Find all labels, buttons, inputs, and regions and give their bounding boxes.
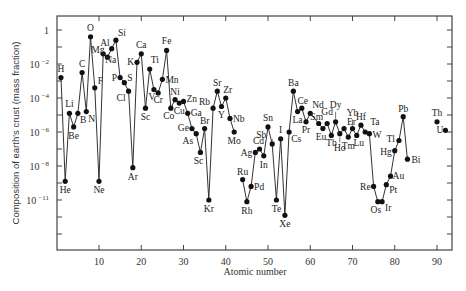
x-tick-label: 20 (136, 256, 146, 267)
element-label: Pd (254, 182, 264, 192)
element-label: Hf (356, 112, 367, 122)
data-point-nb (227, 116, 232, 121)
data-point-c (80, 70, 85, 75)
x-tick-label: 30 (179, 256, 189, 267)
element-label: Zn (187, 94, 198, 104)
element-label: Ru (237, 167, 248, 177)
data-point-mn (160, 77, 165, 82)
element-label: Zr (223, 85, 233, 95)
element-label: Ca (136, 40, 147, 50)
element-label: U (437, 125, 444, 135)
data-point-ir (379, 199, 384, 204)
element-label: Sr (213, 78, 222, 88)
data-point-sc (198, 150, 203, 155)
data-point-w (367, 131, 372, 136)
y-tick-label: 10−11 (26, 194, 49, 206)
element-label: Mn (165, 75, 178, 85)
element-label: Os (371, 205, 382, 215)
data-point-tl (396, 138, 401, 143)
element-label: Al (100, 38, 110, 48)
data-point-mo (232, 129, 237, 134)
data-point-ge (189, 126, 194, 131)
element-label: Fe (162, 36, 172, 46)
y-tick-label: 10−2 (30, 58, 50, 70)
element-label: Ir (385, 203, 392, 213)
data-point-yb (350, 126, 355, 131)
element-label: Ge (178, 123, 189, 133)
element-label: Ag (241, 148, 253, 158)
element-label: Ti (151, 55, 159, 65)
element-label: In (260, 160, 268, 170)
data-point-co (168, 106, 173, 111)
data-point-kr (206, 197, 211, 202)
abundance-chart: 110−210−410−610−810−11 10203040506070809… (0, 0, 466, 291)
data-point-rh (244, 199, 249, 204)
data-point-gd (325, 121, 330, 126)
data-point-pt (384, 182, 389, 187)
element-label: Be (68, 131, 79, 141)
data-point-ba (291, 89, 296, 94)
data-point-sn (265, 124, 270, 129)
x-tick-label: 10 (94, 256, 104, 267)
element-label: Dy (330, 100, 342, 110)
element-label: P (112, 73, 117, 83)
data-point-sm (316, 121, 321, 126)
data-point-ni (172, 97, 177, 102)
element-label: Hg (380, 147, 392, 157)
element-label: Na (105, 55, 117, 65)
element-label: Sn (263, 113, 273, 123)
data-point-fe (164, 48, 169, 53)
data-point-tm (346, 135, 351, 140)
data-point-in (261, 153, 266, 158)
data-point-ca (139, 51, 144, 56)
element-label: Mo (228, 136, 241, 146)
element-label: Nb (233, 114, 245, 124)
y-tick-label: 10−4 (30, 92, 50, 104)
element-label: Pb (398, 104, 408, 114)
data-point-ar (130, 165, 135, 170)
x-tick-label: 80 (390, 256, 400, 267)
x-tick-label: 60 (305, 256, 315, 267)
element-label: Ar (128, 172, 139, 182)
data-point-ce (299, 106, 304, 111)
element-label: Ta (370, 117, 380, 127)
element-label: Rb (199, 97, 210, 107)
element-label: H (58, 64, 65, 74)
data-point-u (443, 128, 448, 133)
element-label: S (127, 73, 132, 83)
y-tick-label: 10−6 (30, 126, 50, 138)
data-point-tb (329, 133, 334, 138)
element-labels: HHeLiBeBCNOFNeNaMgAlSiPSClArKCaScTiVCrMn… (58, 23, 444, 230)
data-point-pb (401, 114, 406, 119)
element-label: Br (200, 116, 210, 126)
data-point-hg (392, 148, 397, 153)
element-label: Y (218, 110, 225, 120)
data-point-li (67, 111, 72, 116)
element-label: As (183, 136, 194, 146)
y-tick-label: 10−8 (30, 160, 50, 172)
element-label: Sc (194, 156, 204, 166)
data-point-cl (126, 89, 131, 94)
element-label: Ba (288, 78, 299, 88)
data-point-te (274, 197, 279, 202)
data-point-be (71, 124, 76, 129)
element-label: Au (393, 171, 405, 181)
data-point-al (109, 46, 114, 51)
element-label: K (127, 57, 134, 67)
data-point-sr (215, 89, 220, 94)
element-label: C (79, 59, 85, 69)
element-label: B (80, 115, 86, 125)
data-point-lu (354, 133, 359, 138)
data-point-ag (253, 150, 258, 155)
element-label: N (88, 114, 95, 124)
data-point-la (295, 109, 300, 114)
data-point-rb (210, 106, 215, 111)
element-label: Re (360, 182, 371, 192)
element-label: Pt (389, 185, 397, 195)
element-label: Te (272, 204, 281, 214)
element-label: O (87, 23, 94, 33)
data-point-i (278, 136, 283, 141)
data-point-eu (320, 126, 325, 131)
data-point-y (219, 104, 224, 109)
element-label: Eu (316, 132, 327, 142)
